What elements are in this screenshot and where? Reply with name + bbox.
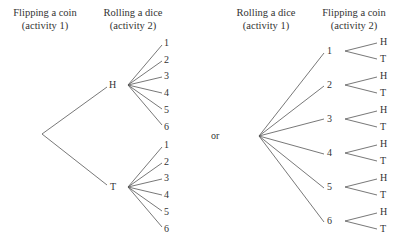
or-separator: or (211, 131, 219, 141)
left-t-outcome-5: 5 (164, 207, 169, 217)
right-5-outcome-h: H (380, 173, 387, 183)
left-branch-t: T (110, 182, 116, 192)
right-6-outcome-t: T (380, 224, 386, 234)
right-branch-1: 1 (327, 46, 332, 56)
left-h-outcome-6: 6 (164, 122, 169, 132)
right-branch-5: 5 (327, 182, 332, 192)
left-t-outcome-3: 3 (164, 173, 169, 183)
right-2-outcome-t: T (380, 88, 386, 98)
left-h-outcome-1: 1 (164, 38, 169, 48)
left-t-outcome-4: 4 (164, 190, 169, 200)
left-h-outcome-4: 4 (164, 88, 169, 98)
right-branch-2: 2 (327, 80, 332, 90)
right-3-outcome-t: T (380, 122, 386, 132)
left-h-outcome-2: 2 (164, 55, 169, 65)
right-5-outcome-t: T (380, 190, 386, 200)
right-6-outcome-h: H (380, 207, 387, 217)
right-4-outcome-t: T (380, 156, 386, 166)
left-h-outcome-5: 5 (164, 105, 169, 115)
tree-lines (0, 0, 400, 246)
right-branch-3: 3 (327, 114, 332, 124)
left-t-outcome-2: 2 (164, 157, 169, 167)
right-branch-6: 6 (327, 216, 332, 226)
right-1-outcome-t: T (380, 54, 386, 64)
right-2-outcome-h: H (380, 71, 387, 81)
right-tree-lines (259, 43, 377, 229)
left-branch-h: H (109, 80, 116, 90)
left-h-outcome-3: 3 (164, 71, 169, 81)
right-1-outcome-h: H (380, 37, 387, 47)
left-t-outcome-6: 6 (164, 224, 169, 234)
left-tree-lines (42, 45, 162, 227)
right-branch-4: 4 (327, 148, 332, 158)
left-t-outcome-1: 1 (164, 140, 169, 150)
right-4-outcome-h: H (380, 139, 387, 149)
right-3-outcome-h: H (380, 105, 387, 115)
